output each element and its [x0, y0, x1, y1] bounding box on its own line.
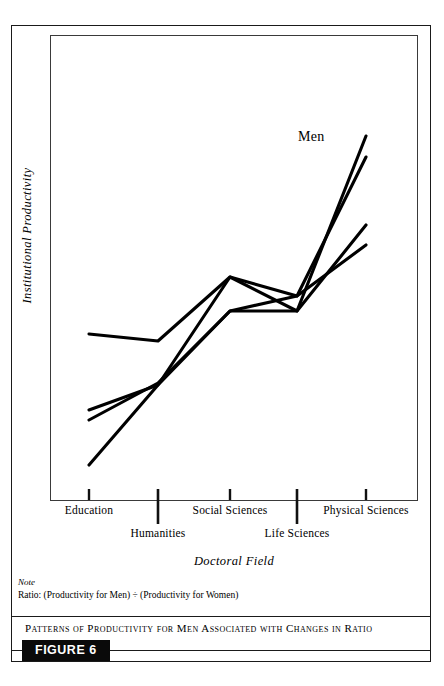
note-heading: Note: [18, 576, 418, 589]
x-tick-label-education: Education: [39, 504, 139, 516]
y-axis-title: Institutional Productivity: [20, 146, 35, 326]
plot-area-frame: [50, 35, 418, 501]
figure-caption: Patterns of Productivity for Men Associa…: [25, 622, 372, 634]
figure-number-badge: FIGURE 6: [22, 640, 110, 661]
series-annotation-men: Men: [298, 129, 325, 145]
x-axis-title: Doctoral Field: [50, 554, 418, 569]
x-tick-label-physical-sciences: Physical Sciences: [316, 504, 416, 516]
caption-top-divider: [11, 616, 431, 617]
figure-root: Institutional Productivity Men Education…: [0, 0, 444, 686]
note-body: Ratio: (Productivity for Men) ÷ (Product…: [18, 589, 418, 602]
x-tick-label-social-sciences: Social Sciences: [180, 504, 280, 516]
note-block: Note Ratio: (Productivity for Men) ÷ (Pr…: [18, 576, 418, 602]
x-tick-label-life-sciences: Life Sciences: [247, 527, 347, 539]
x-tick-label-humanities: Humanities: [108, 527, 208, 539]
